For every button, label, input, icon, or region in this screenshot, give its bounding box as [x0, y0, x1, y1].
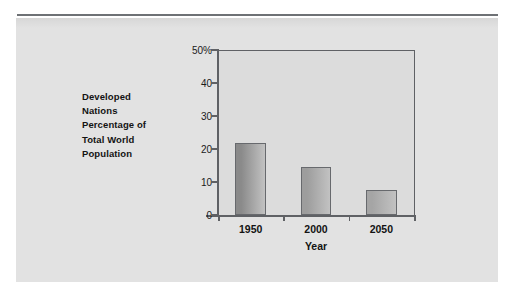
y-axis-title-line-3: Percentage of — [82, 118, 178, 132]
y-tick-mark — [211, 49, 218, 51]
y-tick-label: 50% — [192, 45, 212, 56]
y-tick-mark — [211, 148, 218, 150]
x-tick-mark — [349, 215, 351, 221]
x-tick-label: 1950 — [239, 223, 262, 235]
bar-2050 — [366, 190, 397, 215]
y-tick-mark — [211, 115, 218, 117]
bar-2000 — [301, 167, 332, 215]
y-axis-title: Developed Nations Percentage of Total Wo… — [82, 90, 178, 161]
x-tick-mark — [414, 215, 416, 221]
x-axis-title: Year — [218, 240, 414, 252]
x-tick-label: 2050 — [370, 223, 393, 235]
x-tick-mark — [218, 215, 220, 221]
y-tick-label-group: 01020304050% — [178, 0, 212, 296]
y-axis-title-line-1: Developed — [82, 90, 178, 104]
y-axis-title-line-2: Nations — [82, 104, 178, 118]
y-tick-mark — [211, 82, 218, 84]
x-tick-mark — [283, 215, 285, 221]
y-axis-title-line-5: Population — [82, 147, 178, 161]
panel-sheen — [16, 18, 498, 28]
y-axis-title-line-4: Total World — [82, 133, 178, 147]
x-tick-label: 2000 — [304, 223, 327, 235]
bar-1950 — [235, 143, 266, 215]
y-tick-mark — [211, 181, 218, 183]
y-axis-line — [217, 49, 219, 216]
y-tick-mark — [211, 214, 218, 216]
x-axis-line — [206, 215, 416, 217]
